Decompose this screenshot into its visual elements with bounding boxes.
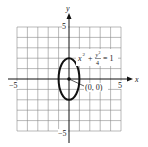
x-axis-arrow-icon xyxy=(127,77,133,82)
y-axis-label: y xyxy=(65,4,70,13)
center-point-label: (0, 0) xyxy=(85,83,103,92)
eq-denominator: 4 xyxy=(96,60,99,66)
y-axis-arrow-icon xyxy=(67,13,72,19)
ellipse-graph: x y −5 5 5 −5 (0, 0) x 2 + y 2 4 = 1 xyxy=(0,0,148,147)
x-min-label: −5 xyxy=(9,81,18,90)
eq-equals: = 1 xyxy=(103,54,114,63)
y-min-label: −5 xyxy=(58,129,67,138)
eq-numerator-exponent: 2 xyxy=(99,50,101,55)
y-max-label: 5 xyxy=(62,22,66,31)
center-leader-line xyxy=(69,79,84,86)
eq-plus: + xyxy=(88,54,93,63)
eq-x: x xyxy=(77,54,82,63)
x-max-label: 5 xyxy=(118,81,122,90)
x-axis-label: x xyxy=(134,75,139,84)
